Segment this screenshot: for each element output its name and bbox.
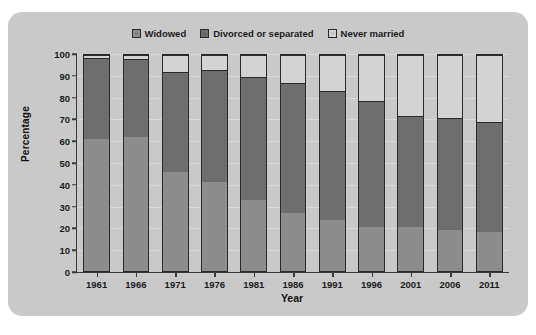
- x-tick-mark: [293, 272, 295, 277]
- y-tick-label: 0: [65, 267, 70, 278]
- x-tick-label: 2006: [440, 279, 461, 290]
- bar-segment-divorced[interactable]: [477, 122, 502, 232]
- y-tick-mark: [72, 97, 77, 99]
- y-tick-label: 100: [54, 49, 70, 60]
- stacked-bar[interactable]: [280, 54, 307, 272]
- y-tick-mark: [72, 206, 77, 208]
- plot-inner: 0102030405060708090100196119661971197619…: [77, 54, 509, 272]
- bar-segment-widowed[interactable]: [477, 232, 502, 271]
- bar-segment-divorced[interactable]: [202, 70, 227, 182]
- x-tick-mark: [97, 272, 99, 277]
- stacked-bar[interactable]: [123, 54, 150, 272]
- bar-group: [240, 54, 267, 272]
- x-tick-label: 1976: [204, 279, 225, 290]
- bar-segment-never[interactable]: [281, 55, 306, 83]
- bar-group: [319, 54, 346, 272]
- legend-item: Widowed: [132, 28, 187, 39]
- bar-segment-widowed[interactable]: [438, 230, 463, 271]
- y-tick-mark: [72, 53, 77, 55]
- x-tick-label: 1971: [165, 279, 186, 290]
- x-tick-label: 2001: [400, 279, 421, 290]
- bar-segment-widowed[interactable]: [163, 172, 188, 271]
- bar-segment-divorced[interactable]: [281, 83, 306, 213]
- y-axis-title: Percentage: [20, 106, 31, 162]
- stacked-bar[interactable]: [319, 54, 346, 272]
- bar-segment-widowed[interactable]: [84, 139, 109, 271]
- stacked-bar[interactable]: [201, 54, 228, 272]
- bar-segment-divorced[interactable]: [84, 58, 109, 139]
- bar-segment-widowed[interactable]: [241, 200, 266, 271]
- x-axis-title: Year: [76, 292, 508, 304]
- bar-segment-never[interactable]: [241, 55, 266, 77]
- bar-segment-never[interactable]: [477, 55, 502, 122]
- x-tick-label: 1966: [125, 279, 146, 290]
- legend-item: Never married: [328, 28, 405, 39]
- plot-area: 0102030405060708090100196119661971197619…: [76, 54, 509, 273]
- bar-segment-widowed[interactable]: [202, 182, 227, 271]
- bar-segment-widowed[interactable]: [320, 220, 345, 271]
- x-tick-mark: [372, 272, 374, 277]
- bar-group: [358, 54, 385, 272]
- x-tick-label: 2011: [479, 279, 500, 290]
- y-tick-mark: [72, 75, 77, 77]
- x-tick-mark: [175, 272, 177, 277]
- bar-group: [123, 54, 150, 272]
- y-tick-mark: [72, 140, 77, 142]
- bar-group: [437, 54, 464, 272]
- bar-segment-divorced[interactable]: [124, 59, 149, 137]
- y-tick-label: 50: [59, 158, 70, 169]
- bar-group: [83, 54, 110, 272]
- bar-segment-never[interactable]: [163, 55, 188, 72]
- bar-segment-never[interactable]: [202, 55, 227, 70]
- bar-segment-divorced[interactable]: [438, 118, 463, 230]
- x-tick-mark: [332, 272, 334, 277]
- stacked-bar[interactable]: [437, 54, 464, 272]
- y-tick-mark: [72, 184, 77, 186]
- bar-segment-never[interactable]: [438, 55, 463, 118]
- y-tick-label: 20: [59, 223, 70, 234]
- bar-segment-never[interactable]: [320, 55, 345, 91]
- y-tick-label: 90: [59, 70, 70, 81]
- x-tick-label: 1986: [282, 279, 303, 290]
- y-tick-mark: [72, 228, 77, 230]
- x-tick-mark: [214, 272, 216, 277]
- bar-group: [397, 54, 424, 272]
- bar-segment-never[interactable]: [398, 55, 423, 115]
- bar-segment-widowed[interactable]: [398, 227, 423, 271]
- x-tick-mark: [136, 272, 138, 277]
- bar-segment-divorced[interactable]: [398, 116, 423, 227]
- stacked-bar[interactable]: [358, 54, 385, 272]
- legend-item-label: Never married: [341, 28, 405, 39]
- y-tick-label: 80: [59, 92, 70, 103]
- bar-segment-widowed[interactable]: [281, 213, 306, 271]
- legend-swatch-icon: [200, 29, 209, 38]
- x-tick-label: 1981: [243, 279, 264, 290]
- chart-legend: WidowedDivorced or separatedNever marrie…: [8, 28, 528, 39]
- chart-card: WidowedDivorced or separatedNever marrie…: [8, 12, 528, 316]
- bar-segment-divorced[interactable]: [241, 77, 266, 200]
- stacked-bar[interactable]: [240, 54, 267, 272]
- y-tick-label: 30: [59, 201, 70, 212]
- x-tick-mark: [254, 272, 256, 277]
- stacked-bar[interactable]: [162, 54, 189, 272]
- x-tick-label: 1961: [86, 279, 107, 290]
- stacked-bar[interactable]: [397, 54, 424, 272]
- x-tick-label: 1996: [361, 279, 382, 290]
- y-tick-label: 60: [59, 136, 70, 147]
- y-tick-label: 70: [59, 114, 70, 125]
- y-tick-mark: [72, 162, 77, 164]
- bar-segment-widowed[interactable]: [359, 227, 384, 271]
- bar-segment-divorced[interactable]: [320, 91, 345, 221]
- bar-segment-never[interactable]: [359, 55, 384, 101]
- bar-segment-divorced[interactable]: [163, 72, 188, 171]
- y-tick-mark: [72, 249, 77, 251]
- bar-group: [162, 54, 189, 272]
- stacked-bar[interactable]: [476, 54, 503, 272]
- bar-segment-widowed[interactable]: [124, 137, 149, 271]
- bar-group: [280, 54, 307, 272]
- x-tick-mark: [450, 272, 452, 277]
- y-tick-mark: [72, 271, 77, 273]
- bar-segment-divorced[interactable]: [359, 101, 384, 226]
- stacked-bar[interactable]: [83, 54, 110, 272]
- legend-item-label: Divorced or separated: [213, 28, 313, 39]
